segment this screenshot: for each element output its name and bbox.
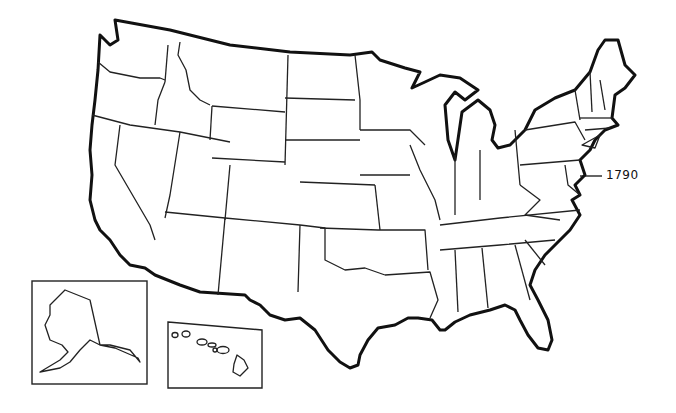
year-annotation-label: 1790 — [606, 168, 639, 182]
alaska-inset-frame — [32, 281, 147, 384]
hawaii-inset-frame — [168, 322, 262, 388]
hawaii-islands — [172, 331, 248, 376]
alaska-outline — [40, 290, 140, 372]
us-outline-map — [0, 0, 676, 413]
contiguous-us-border — [90, 20, 635, 368]
